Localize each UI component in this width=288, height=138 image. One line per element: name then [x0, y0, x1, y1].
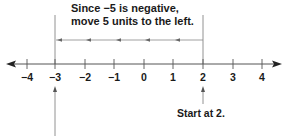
tick-label: 3: [230, 71, 236, 83]
tick-label: −2: [79, 71, 91, 83]
left-arrowhead-icon: [175, 38, 180, 42]
left-arrowhead-icon: [145, 38, 150, 42]
tick-label: 0: [141, 71, 147, 83]
number-line: −4 −3 −2 −1 0 1 2 3 4: [6, 59, 282, 83]
left-arrowhead-icon: [116, 38, 121, 42]
caption-line-2: move 5 units to the left.: [71, 15, 194, 27]
start-label: Start at 2.: [177, 107, 225, 119]
movement-arrows: [56, 38, 203, 42]
tick-label: −1: [108, 71, 120, 83]
tick-label: 1: [170, 71, 176, 83]
tick-label: 2: [200, 71, 206, 83]
tick-label: −3: [49, 71, 61, 83]
result-pointer-arrow: [53, 86, 57, 136]
number-line-diagram: Since −5 is negative, move 5 units to th…: [0, 0, 288, 138]
left-arrowhead-icon: [57, 38, 62, 42]
caption-line-1: Since −5 is negative,: [71, 2, 179, 14]
tick-label: 4: [259, 71, 265, 83]
tick-label: −4: [21, 71, 33, 83]
up-arrow-icon: [53, 86, 57, 92]
left-arrowhead-icon: [86, 38, 91, 42]
up-arrow-icon: [201, 86, 205, 92]
tick-labels: −4 −3 −2 −1 0 1 2 3 4: [21, 71, 265, 83]
start-pointer-arrow: [201, 86, 205, 104]
